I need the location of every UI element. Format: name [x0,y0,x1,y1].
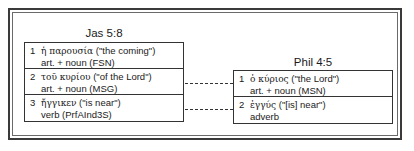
right-column: 1 ὁ κύριος ("the Lord") art. + noun (MSN… [233,70,393,124]
left-item-3: 3 ἤγγικεν ("is near") verb (PrfAInd3S) [25,95,183,121]
right-item-1: 1 ὁ κύριος ("the Lord") art. + noun (MSN… [234,71,392,97]
left-item-1: 1 ἡ παρουσία ("the coming") art. + noun … [25,43,183,69]
left-column: 1 ἡ παρουσία ("the coming") art. + noun … [24,42,184,122]
link-connector-2 [185,109,233,110]
left-column-title: Jas 5:8 [24,27,184,39]
left-item-2: 2 τοῦ κυρίου ("of the Lord") art. + noun… [25,69,183,95]
link-connector-1 [185,83,233,84]
right-item-2: 2 ἐγγύς ("[is] near") adverb [234,97,392,123]
right-column-title: Phil 4:5 [233,56,393,68]
